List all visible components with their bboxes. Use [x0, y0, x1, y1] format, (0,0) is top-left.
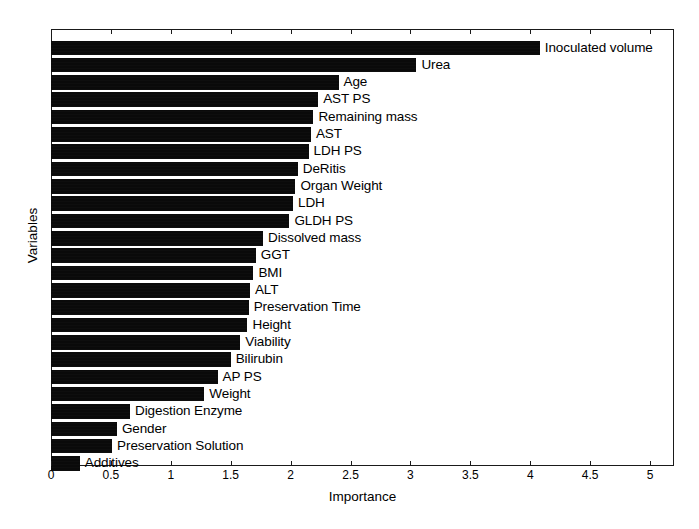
bar-category-label: Preservation Solution	[117, 437, 243, 454]
bar-category-label: Digestion Enzyme	[135, 402, 242, 419]
bar	[51, 214, 289, 229]
bar-category-label: Urea	[421, 56, 450, 73]
bar-row: Age	[51, 74, 674, 91]
bar-category-label: ALT	[255, 281, 278, 298]
bar-category-label: BMI	[258, 264, 282, 281]
bar-row: Dissolved mass	[51, 230, 674, 247]
bar	[51, 300, 249, 315]
bar-category-label: Preservation Time	[254, 298, 361, 315]
bar-row: DeRitis	[51, 161, 674, 178]
bar	[51, 127, 311, 142]
bar	[51, 266, 253, 281]
bar-row: AST	[51, 126, 674, 143]
x-tick-label: 3	[407, 468, 414, 482]
bar	[51, 439, 112, 454]
bar-row: Remaining mass	[51, 109, 674, 126]
bar	[51, 387, 204, 402]
bar	[51, 352, 231, 367]
bar-row: Organ Weight	[51, 178, 674, 195]
bar-category-label: AST PS	[323, 90, 370, 107]
bar-category-label: LDH PS	[314, 142, 362, 159]
bar-category-label: Viability	[245, 333, 290, 350]
x-tick-mark	[171, 461, 172, 466]
bar-category-label: Bilirubin	[236, 350, 283, 367]
x-tick-label: 1.5	[222, 468, 239, 482]
x-tick-label: 0	[48, 468, 55, 482]
bar	[51, 335, 240, 350]
bar	[51, 41, 540, 56]
bar-row: AP PS	[51, 369, 674, 386]
bar-category-label: LDH	[298, 194, 325, 211]
x-tick-mark	[650, 461, 651, 466]
x-tick-mark	[470, 461, 471, 466]
bar-row: GGT	[51, 247, 674, 264]
bar	[51, 248, 256, 263]
bar	[51, 422, 117, 437]
bar	[51, 370, 218, 385]
bar-row: LDH	[51, 195, 674, 212]
x-tick-mark	[51, 461, 52, 466]
x-tick-label: 1	[167, 468, 174, 482]
x-tick-label: 3.5	[462, 468, 479, 482]
x-tick-label: 2.5	[342, 468, 359, 482]
bar-category-label: AST	[316, 125, 342, 142]
bar-category-label: GLDH PS	[294, 212, 353, 229]
x-tick-label: 4.5	[582, 468, 599, 482]
bar	[51, 110, 313, 125]
bar	[51, 92, 318, 107]
bar-row: Weight	[51, 386, 674, 403]
bar-row: Bilirubin	[51, 351, 674, 368]
x-tick-mark	[351, 461, 352, 466]
bar-category-label: Weight	[209, 385, 250, 402]
bar-category-label: Age	[344, 73, 368, 90]
x-tick-mark	[111, 461, 112, 466]
x-tick-label: 2	[287, 468, 294, 482]
bar-row: Preservation Time	[51, 299, 674, 316]
bar-row: BMI	[51, 265, 674, 282]
bar	[51, 231, 263, 246]
bar-category-label: Height	[252, 316, 290, 333]
x-axis-label: Importance	[51, 489, 674, 504]
x-tick-mark	[291, 461, 292, 466]
x-tick-mark	[530, 461, 531, 466]
bar-row: ALT	[51, 282, 674, 299]
variable-importance-chart: Inoculated volumeUreaAgeAST PSRemaining …	[0, 0, 699, 529]
bar-row: Inoculated volume	[51, 40, 674, 57]
bar-category-label: Remaining mass	[318, 108, 417, 125]
bar-row: AST PS	[51, 91, 674, 108]
x-tick-label: 4	[527, 468, 534, 482]
bars-layer: Inoculated volumeUreaAgeAST PSRemaining …	[51, 29, 674, 466]
bar	[51, 144, 309, 159]
x-tick-mark	[410, 461, 411, 466]
bar-category-label: DeRitis	[303, 160, 346, 177]
bar-row: Height	[51, 317, 674, 334]
bar-row: LDH PS	[51, 143, 674, 160]
bar	[51, 75, 339, 90]
x-tick-mark	[231, 461, 232, 466]
bar	[51, 196, 293, 211]
bar-category-label: Organ Weight	[300, 177, 382, 194]
bar	[51, 318, 247, 333]
bar-category-label: Inoculated volume	[545, 39, 653, 56]
bar-category-label: Gender	[122, 420, 166, 437]
y-axis-label: Variables	[25, 176, 40, 296]
bar-row: Preservation Solution	[51, 438, 674, 455]
bar-row: Digestion Enzyme	[51, 403, 674, 420]
bar	[51, 283, 250, 298]
x-tick-mark	[590, 461, 591, 466]
bar-row: GLDH PS	[51, 213, 674, 230]
bar	[51, 179, 295, 194]
bar	[51, 58, 416, 73]
bar-category-label: GGT	[261, 246, 290, 263]
bar-row: Viability	[51, 334, 674, 351]
bar-category-label: Dissolved mass	[268, 229, 361, 246]
x-tick-label: 0.5	[103, 468, 120, 482]
bar-row: Gender	[51, 421, 674, 438]
bar-category-label: AP PS	[223, 368, 262, 385]
bar	[51, 162, 298, 177]
bar-row: Urea	[51, 57, 674, 74]
x-tick-label: 5	[647, 468, 654, 482]
bar	[51, 404, 130, 419]
